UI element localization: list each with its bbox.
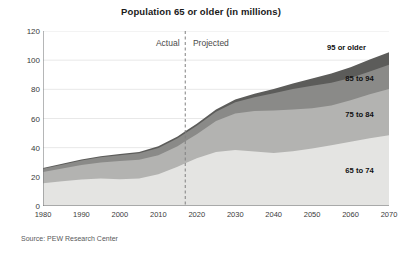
- period-label-actual: Actual: [156, 38, 180, 48]
- x-tick-label: 2040: [265, 210, 282, 219]
- y-tick-label: 40: [4, 143, 40, 152]
- stacked-area-plot: [43, 31, 389, 206]
- y-axis: 020406080100120: [0, 31, 40, 206]
- chart-source: Source: PEW Research Center: [21, 235, 118, 242]
- x-tick-label: 2000: [112, 210, 129, 219]
- x-tick-label: 1990: [73, 210, 90, 219]
- y-tick-label: 20: [4, 172, 40, 181]
- y-tick-label: 100: [4, 56, 40, 65]
- y-tick-label: 120: [4, 27, 40, 36]
- x-axis: 1980199020002010202020302040205020602070: [43, 210, 389, 224]
- band-label: 75 to 84: [345, 110, 373, 119]
- x-tick-label: 2050: [304, 210, 321, 219]
- plot-area: 95 or older85 to 9475 to 8465 to 74Actua…: [43, 31, 389, 206]
- band-label: 95 or older: [327, 43, 366, 52]
- x-tick-label: 2060: [342, 210, 359, 219]
- x-tick-label: 1980: [35, 210, 52, 219]
- x-tick-label: 2070: [381, 210, 398, 219]
- x-tick-label: 2020: [188, 210, 205, 219]
- y-tick-label: 60: [4, 114, 40, 123]
- chart-title: Population 65 or older (in millions): [0, 6, 402, 17]
- band-label: 65 to 74: [345, 165, 373, 174]
- x-tick-label: 2010: [150, 210, 167, 219]
- band-label: 85 to 94: [345, 73, 373, 82]
- period-label-projected: Projected: [193, 38, 229, 48]
- y-tick-label: 80: [4, 85, 40, 94]
- x-tick-label: 2030: [227, 210, 244, 219]
- chart-container: Population 65 or older (in millions) 020…: [0, 0, 402, 257]
